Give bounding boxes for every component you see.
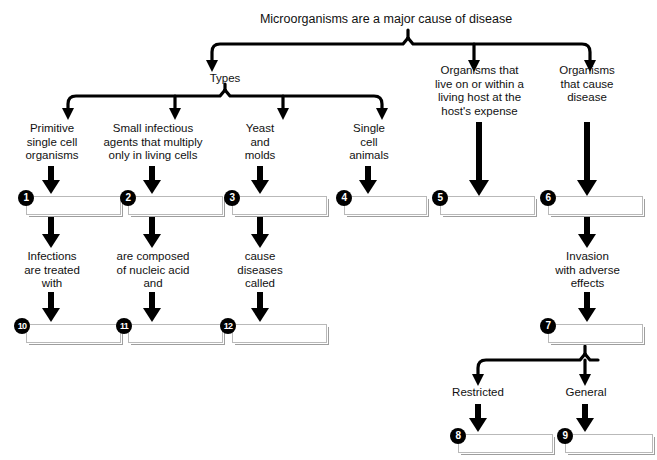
page-title: Microorganisms are a major cause of dise… (246, 12, 526, 27)
answer-box-2[interactable] (128, 196, 223, 215)
answer-box-6[interactable] (548, 196, 643, 215)
answer-box-4[interactable] (344, 196, 427, 215)
invasion-label-restricted: Restricted (438, 386, 518, 400)
arrowhead (578, 234, 596, 248)
type-description-1: Primitive single cell organisms (10, 122, 94, 163)
arrowhead (206, 60, 218, 72)
answer-box-9[interactable] (565, 434, 653, 453)
answer-box-12-number: 12 (220, 318, 236, 334)
answer-box-6-number: 6 (540, 190, 556, 206)
answer-box-1[interactable] (26, 196, 121, 215)
arrowhead (469, 418, 487, 432)
arrowhead (42, 180, 60, 194)
answer-box-2-number: 2 (120, 190, 136, 206)
type-description-3: Yeast and molds (222, 122, 298, 163)
branch-label-disease-organisms: Organisms that cause disease (545, 64, 629, 105)
arrowhead (376, 108, 388, 120)
arrowhead (469, 180, 489, 196)
second-description-3: cause diseases called (216, 250, 304, 291)
arrowhead (62, 108, 74, 120)
answer-box-8-number: 8 (450, 428, 466, 444)
answer-box-3[interactable] (232, 196, 327, 215)
answer-box-5-number: 5 (432, 190, 448, 206)
arrowhead (143, 308, 161, 322)
answer-box-12[interactable] (232, 324, 327, 343)
arrowhead (42, 308, 60, 322)
answer-box-5[interactable] (440, 196, 535, 215)
arrowhead (251, 180, 269, 194)
arrowhead (472, 374, 484, 386)
type-description-4: Single cell animals (331, 122, 407, 163)
arrowhead (251, 234, 269, 248)
branch-label-types: Types (190, 72, 260, 86)
answer-box-7-number: 7 (540, 318, 556, 334)
type-description-2: Small infectious agents that multiply on… (95, 122, 211, 163)
second-description-1: Infections are treated with (8, 250, 96, 291)
arrowhead (42, 234, 60, 248)
second-description-2: are composed of nucleic acid and (98, 250, 208, 291)
answer-box-8[interactable] (458, 434, 553, 453)
answer-box-9-number: 9 (557, 428, 573, 444)
branch-label-host-organisms: Organisms that live on or within a livin… (426, 64, 533, 118)
answer-box-10-number: 10 (14, 318, 30, 334)
answer-box-7[interactable] (548, 324, 643, 343)
arrowhead (143, 180, 161, 194)
arrowhead (169, 108, 181, 120)
arrowhead (277, 108, 289, 120)
answer-box-10[interactable] (26, 324, 121, 343)
concept-map-canvas: Microorganisms are a major cause of dise… (0, 0, 657, 460)
answer-box-1-number: 1 (18, 190, 34, 206)
arrowhead (579, 374, 591, 386)
arrowhead (576, 418, 594, 432)
answer-box-11-number: 11 (116, 318, 132, 334)
arrowhead (359, 180, 377, 194)
arrowhead (251, 308, 269, 322)
answer-box-4-number: 4 (336, 190, 352, 206)
arrowhead (577, 180, 597, 196)
arrowhead (143, 234, 161, 248)
answer-box-11[interactable] (128, 324, 223, 343)
answer-box-3-number: 3 (224, 190, 240, 206)
second-description-4: Invasion with adverse effects (541, 250, 634, 291)
arrowhead (578, 308, 596, 322)
invasion-label-general: General (551, 386, 621, 400)
